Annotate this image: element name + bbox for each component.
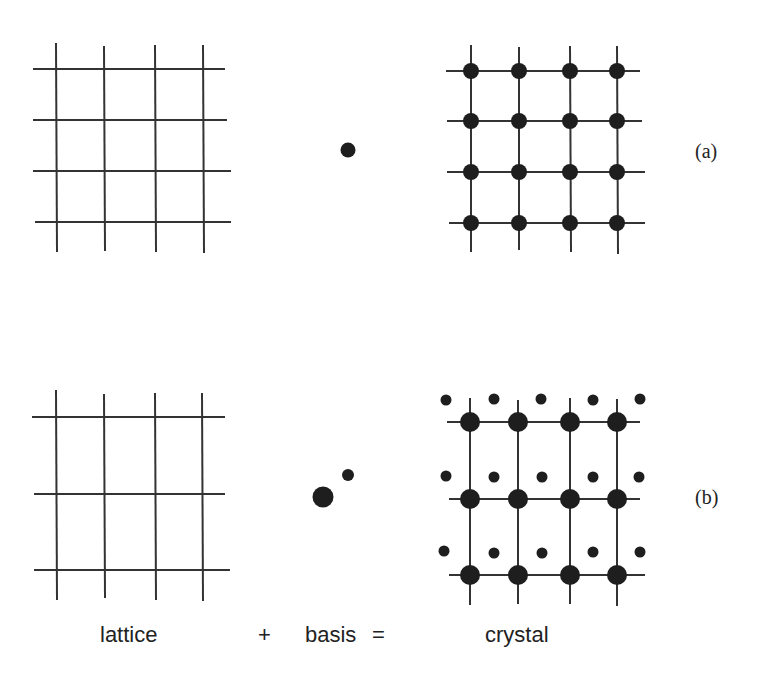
basis-a-atom — [341, 143, 356, 158]
basis-b-small-atom — [342, 469, 354, 481]
caption-basis: basis — [305, 622, 356, 648]
caption-crystal: crystal — [485, 622, 549, 648]
caption-plus: + — [258, 622, 271, 648]
lattice-b — [32, 390, 230, 601]
row-label-a: (a) — [695, 140, 717, 163]
lattice-basis-crystal-diagram — [0, 0, 762, 677]
caption-equals: = — [372, 622, 385, 648]
crystal-a-atoms — [463, 63, 625, 231]
lattice-a — [33, 43, 231, 253]
caption-lattice: lattice — [100, 622, 157, 648]
basis-b-large-atom — [313, 487, 334, 508]
row-label-b: (b) — [695, 486, 718, 509]
